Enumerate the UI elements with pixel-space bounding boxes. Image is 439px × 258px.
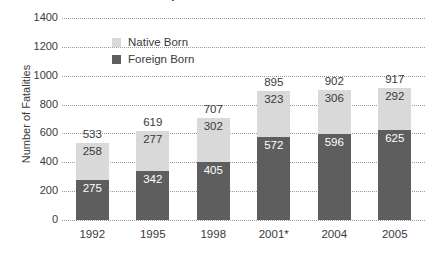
bar-value-label-native-born: 277 [136,133,169,146]
x-axis-tick-label: 2004 [304,228,364,240]
bar-total-label: 902 [318,75,351,88]
bar-value-label-native-born: 292 [378,90,411,103]
y-axis-tick-label: 1400 [12,11,58,23]
bar-total-label: 533 [76,128,109,141]
y-axis-tick-label: 600 [12,126,58,138]
legend: Native Born Foreign Born [112,35,194,69]
bar-segment-foreign-born[interactable]: 596 [318,134,351,220]
x-axis-tick-label: 1992 [62,228,122,240]
bar-value-label-native-born: 258 [76,145,109,158]
bar-segment-native-born[interactable]: 533258 [76,143,109,180]
y-axis-tick-label: 1000 [12,69,58,81]
legend-swatch-native-born-icon [112,38,121,47]
bar-group[interactable]: 917292625 [378,88,411,220]
y-axis-tick-label: 0 [12,213,58,225]
legend-item-native-born: Native Born [112,35,194,49]
bar-group[interactable]: 895323572 [257,91,290,220]
bar-group[interactable]: 707302405 [197,118,230,220]
bar-segment-foreign-born[interactable]: 342 [136,171,169,220]
bar-group[interactable]: 902306596 [318,90,351,220]
bar-segment-native-born[interactable]: 917292 [378,88,411,130]
bar-total-label: 619 [136,116,169,129]
bar-value-label-foreign-born: 596 [318,136,351,149]
bar-group[interactable]: 533258275 [76,143,109,220]
bar-segment-native-born[interactable]: 895323 [257,91,290,138]
x-axis-tick-label: 2001* [244,228,304,240]
bar-total-label: 895 [257,76,290,89]
bar-value-label-native-born: 302 [197,120,230,133]
bar-value-label-foreign-born: 275 [76,182,109,195]
legend-item-foreign-born: Foreign Born [112,52,194,66]
bar-segment-foreign-born[interactable]: 572 [257,137,290,220]
bar-value-label-foreign-born: 572 [257,139,290,152]
x-axis-tick-label: 2005 [365,228,425,240]
bar-segment-native-born[interactable]: 902306 [318,90,351,134]
bar-value-label-foreign-born: 405 [197,164,230,177]
bar-total-label: 917 [378,73,411,86]
bar-segment-foreign-born[interactable]: 405 [197,162,230,220]
y-axis-tick-label: 800 [12,98,58,110]
bar-value-label-foreign-born: 625 [378,132,411,145]
bar-value-label-foreign-born: 342 [136,173,169,186]
y-axis-tick-label: 1200 [12,40,58,52]
bar-total-label: 707 [197,103,230,116]
legend-label-foreign-born: Foreign Born [128,53,194,65]
bar-value-label-native-born: 323 [257,93,290,106]
stacked-bar-chart: US Workplace Fatalities 1992-2005 Number… [0,0,439,258]
y-axis-tick-label: 200 [12,184,58,196]
y-axis-tick-label: 400 [12,155,58,167]
x-axis-tick-label: 1998 [183,228,243,240]
gridline [62,220,425,221]
chart-title: US Workplace Fatalities 1992-2005 [0,0,439,1]
bar-segment-native-born[interactable]: 707302 [197,118,230,162]
legend-swatch-foreign-born-icon [112,55,121,64]
x-axis-tick-label: 1995 [123,228,183,240]
bar-segment-foreign-born[interactable]: 625 [378,130,411,220]
legend-label-native-born: Native Born [128,36,188,48]
bar-segment-foreign-born[interactable]: 275 [76,180,109,220]
bar-value-label-native-born: 306 [318,92,351,105]
bar-segment-native-born[interactable]: 619277 [136,131,169,171]
bar-group[interactable]: 619277342 [136,131,169,220]
